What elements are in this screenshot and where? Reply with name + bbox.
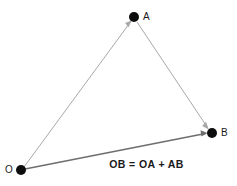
point-a-dot — [129, 12, 139, 22]
vector-equation: OB = OA + AB — [0, 159, 237, 170]
vector-oa-shaft — [24, 22, 131, 167]
vector-diagram: A B O OB = OA + AB — [0, 0, 237, 186]
point-a-label: A — [143, 12, 150, 22]
point-b-dot — [207, 128, 217, 138]
vector-ab — [137, 22, 209, 130]
vector-ab-shaft — [137, 22, 208, 128]
point-b-label: B — [221, 128, 228, 138]
vector-oa — [24, 21, 132, 168]
vector-oa-arrowhead — [125, 21, 132, 28]
vector-ob-arrowhead — [201, 130, 208, 136]
vector-ab-arrowhead — [202, 122, 209, 130]
